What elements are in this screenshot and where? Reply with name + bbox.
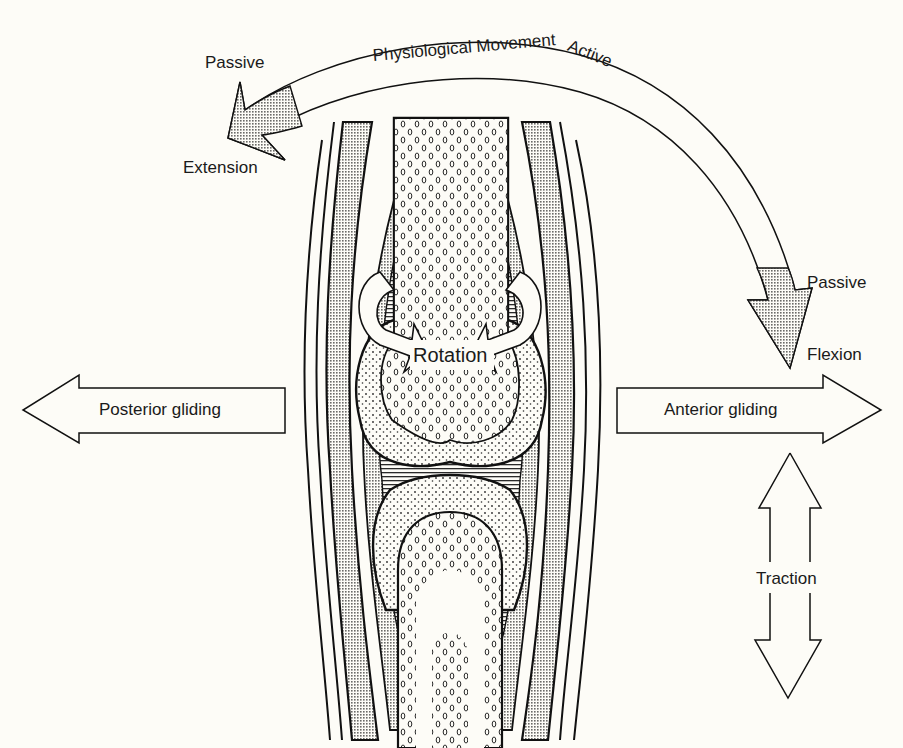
label-extension: Extension [183, 158, 258, 178]
label-rotation: Rotation [413, 344, 488, 367]
label-anterior-gliding: Anterior gliding [664, 400, 777, 420]
label-flexion: Flexion [807, 345, 862, 365]
label-posterior-gliding: Posterior gliding [99, 400, 221, 420]
label-passive-flexion-side: Passive [807, 273, 867, 293]
label-traction: Traction [756, 569, 817, 589]
label-passive-extension-side: Passive [205, 53, 265, 73]
joint-diagram [0, 0, 903, 748]
